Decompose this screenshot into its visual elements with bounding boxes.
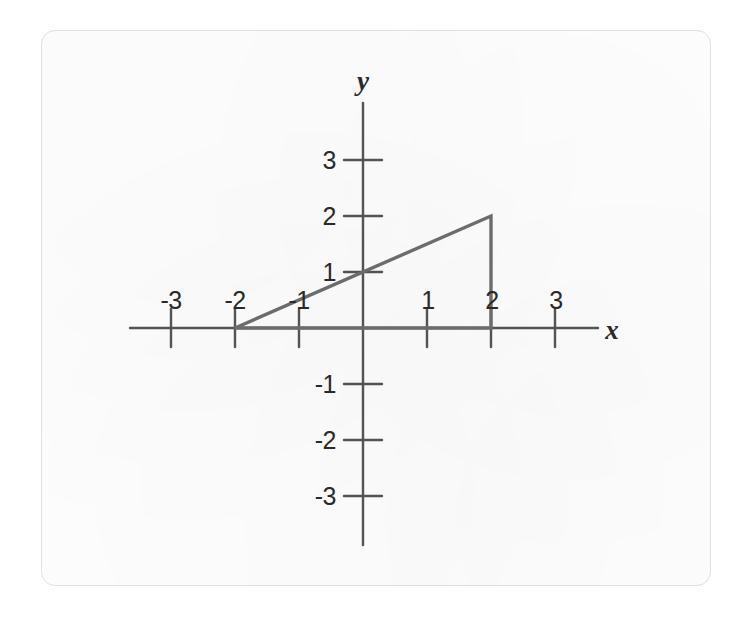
y-tick-label-3: 3 — [323, 146, 336, 174]
y-tick-label-2: 2 — [323, 202, 336, 230]
x-tick-label-3: 3 — [549, 286, 562, 314]
y-axis-label: y — [354, 66, 370, 96]
screenshot-root: -3 -2 -1 1 2 3 3 2 1 -1 -2 -3 x y — [0, 0, 747, 626]
coordinate-plane-svg: -3 -2 -1 1 2 3 3 2 1 -1 -2 -3 x y — [0, 0, 747, 626]
y-tick-label--2: -2 — [315, 426, 336, 454]
x-tick-label--3: -3 — [160, 286, 181, 314]
x-tick-label--2: -2 — [224, 286, 245, 314]
x-tick-label-2: 2 — [485, 286, 498, 314]
y-tick-label--1: -1 — [315, 370, 336, 398]
y-tick-label-1: 1 — [323, 258, 336, 286]
x-tick-labels: -3 -2 -1 1 2 3 — [160, 286, 562, 314]
x-tick-label--1: -1 — [288, 286, 309, 314]
coordinate-plane-figure: -3 -2 -1 1 2 3 3 2 1 -1 -2 -3 x y — [0, 0, 747, 626]
x-tick-label-1: 1 — [421, 286, 434, 314]
y-tick-label--3: -3 — [315, 482, 336, 510]
x-axis-label: x — [604, 315, 619, 345]
axis-lines — [130, 103, 598, 545]
